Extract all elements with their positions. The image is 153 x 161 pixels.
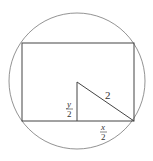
- horizontal-label-numerator: x: [100, 122, 105, 132]
- circle: [9, 13, 145, 149]
- vertical-label-denominator: 2: [67, 109, 72, 119]
- vertical-label-numerator: y: [66, 99, 71, 109]
- geometry-diagram: 2 y 2 x 2: [0, 0, 153, 161]
- hypotenuse-label: 2: [105, 89, 111, 101]
- right-triangle: [77, 82, 134, 121]
- horizontal-label-denominator: 2: [101, 132, 106, 142]
